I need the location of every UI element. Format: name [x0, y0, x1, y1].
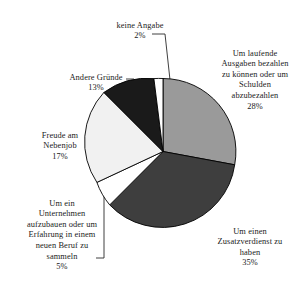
slice-label-keine-angabe-value: 2% [92, 31, 188, 42]
slice-label-unternehmen-value: 5% [6, 262, 118, 273]
slice-label-laufende-ausgaben-text: Um laufende Ausgaben bezahlen zu können … [221, 49, 288, 100]
slice-label-laufende-ausgaben: Um laufende Ausgaben bezahlen zu können … [206, 38, 304, 123]
slice-label-freude-nebenjob: Freude am Nebenjob 17% [18, 120, 102, 173]
slice-label-unternehmen: Um ein Unternehmen aufzubauen oder um Er… [6, 188, 118, 283]
slice-label-unternehmen-text: Um ein Unternehmen aufzubauen oder um Er… [27, 199, 97, 261]
slice-label-freude-nebenjob-text: Freude am Nebenjob [42, 131, 78, 151]
slice-label-andere-gruende: Andere Gründe 13% [48, 62, 144, 104]
slice-label-andere-gruende-text: Andere Gründe [69, 73, 122, 82]
slice-label-zusatzverdienst-text: Um einen Zusatzverdienst zu haben [218, 227, 283, 257]
pie-chart-page: keine Angabe 2% Um laufende Ausgaben bez… [0, 0, 308, 294]
slice-label-keine-angabe: keine Angabe 2% [92, 10, 188, 52]
slice-label-andere-gruende-value: 13% [48, 83, 144, 94]
slice-label-freude-nebenjob-value: 17% [18, 152, 102, 163]
slice-label-keine-angabe-text: keine Angabe [116, 21, 163, 30]
slice-label-zusatzverdienst: Um einen Zusatzverdienst zu haben 35% [198, 216, 302, 280]
slice-label-zusatzverdienst-value: 35% [198, 258, 302, 269]
slice-label-laufende-ausgaben-value: 28% [206, 102, 304, 113]
